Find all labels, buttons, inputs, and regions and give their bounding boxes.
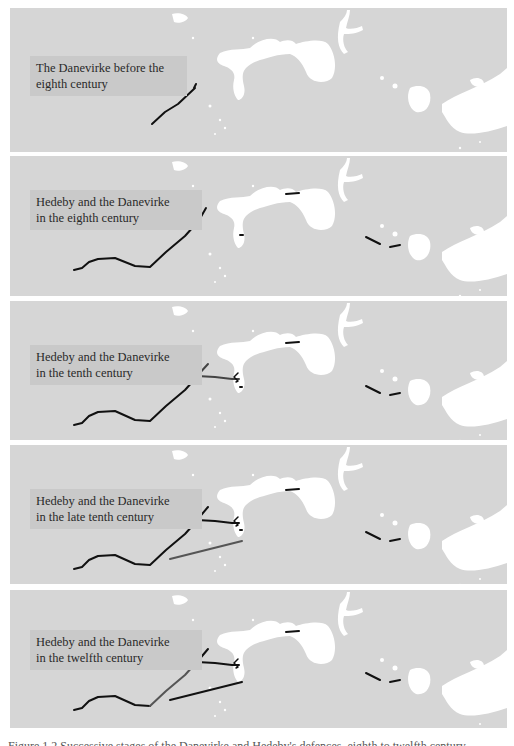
map-panel-3: Hedeby and the Danevirke in the tenth ce… bbox=[10, 301, 507, 440]
wall-segment bbox=[74, 380, 194, 425]
wall-segment bbox=[366, 532, 380, 539]
figure-caption: Figure 1.2 Successive stages of the Dane… bbox=[8, 737, 508, 746]
wall-segment bbox=[74, 524, 194, 569]
wall-segment bbox=[74, 226, 194, 270]
panel-label-line1: Hedeby and the Danevirke bbox=[36, 634, 196, 650]
wall-segment bbox=[170, 541, 242, 559]
wall-segment bbox=[286, 489, 299, 490]
panel-label-line2: in the twelfth century bbox=[36, 650, 196, 666]
water-bodies bbox=[172, 10, 507, 149]
wall-segment bbox=[366, 237, 380, 244]
panel-label-line1: The Danevirke before the bbox=[36, 60, 181, 76]
panel-label: Hedeby and the Danevirke in the tenth ce… bbox=[30, 345, 202, 385]
map-panel-4: Hedeby and the Danevirke in the late ten… bbox=[10, 445, 507, 584]
water-bodies bbox=[172, 158, 507, 296]
panel-label-line2: in the tenth century bbox=[36, 365, 196, 381]
wall-segment bbox=[390, 539, 400, 541]
wall-segment bbox=[390, 245, 400, 247]
panel-label: Hedeby and the Danevirke in the late ten… bbox=[30, 489, 202, 529]
panel-label: Hedeby and the Danevirke in the twelfth … bbox=[30, 630, 202, 670]
wall-segment bbox=[286, 631, 299, 632]
wall-segment bbox=[286, 193, 299, 194]
wall-segment bbox=[197, 507, 239, 523]
panel-label-line1: Hedeby and the Danevirke bbox=[36, 349, 196, 365]
map-panel-5: Hedeby and the Danevirke in the twelfth … bbox=[10, 590, 507, 728]
wall-segment bbox=[366, 386, 380, 393]
panel-label-line1: Hedeby and the Danevirke bbox=[36, 493, 196, 509]
wall-segment bbox=[286, 342, 299, 343]
panel-label-line2: in the late tenth century bbox=[36, 509, 196, 525]
water-bodies bbox=[172, 592, 507, 728]
wall-segment bbox=[74, 696, 150, 710]
panel-label-line2: eighth century bbox=[36, 76, 181, 92]
wall-segment bbox=[197, 364, 239, 379]
wall-segment bbox=[390, 393, 400, 395]
wall-segment bbox=[170, 682, 242, 700]
water-bodies bbox=[172, 303, 507, 440]
map-panel-1: The Danevirke before the eighth century bbox=[10, 8, 507, 152]
panel-label-line1: Hedeby and the Danevirke bbox=[36, 194, 196, 210]
map-panel-2: Hedeby and the Danevirke in the eighth c… bbox=[10, 156, 507, 296]
panel-label-line2: in the eighth century bbox=[36, 210, 196, 226]
panel-label: Hedeby and the Danevirke in the eighth c… bbox=[30, 190, 202, 230]
wall-segment bbox=[366, 673, 380, 680]
panel-label: The Danevirke before the eighth century bbox=[30, 56, 187, 96]
water-bodies bbox=[172, 447, 507, 584]
wall-segment bbox=[390, 680, 400, 682]
